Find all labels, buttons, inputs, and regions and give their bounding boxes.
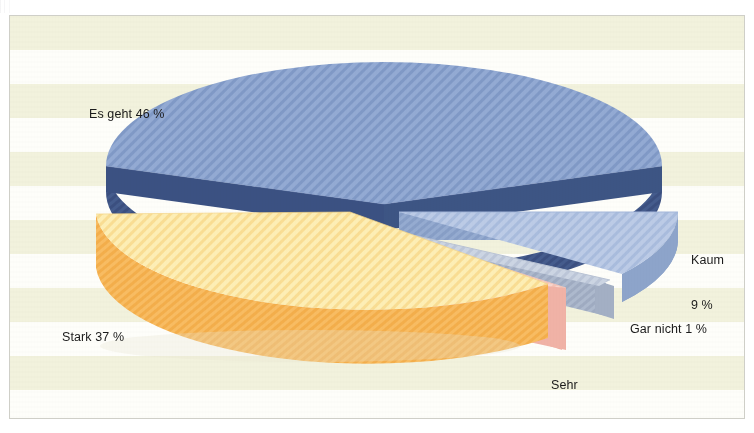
page-bleed-text-line xyxy=(0,0,754,13)
slice-label-stark: Stark 37 % xyxy=(62,330,124,345)
pie-chart-3d xyxy=(10,16,745,419)
slice-label-sehr-stark: Sehr stark 6 % xyxy=(551,348,604,419)
slice-label-gar-nicht: Gar nicht 1 % xyxy=(630,322,707,337)
slice-label-sehr-stark-line1: Sehr xyxy=(551,378,604,393)
pie-chart-svg xyxy=(10,16,745,419)
figure-frame: Es geht 46 % Stark 37 % Kaum 9 % Gar nic… xyxy=(9,15,745,419)
slice-label-kaum-line2: 9 % xyxy=(691,298,724,313)
slice-label-es-geht: Es geht 46 % xyxy=(89,107,165,122)
slice-label-kaum-line1: Kaum xyxy=(691,253,724,268)
figure-page: Es geht 46 % Stark 37 % Kaum 9 % Gar nic… xyxy=(0,0,754,433)
